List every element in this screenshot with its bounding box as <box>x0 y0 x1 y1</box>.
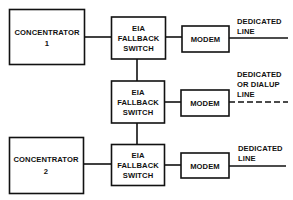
concentrator-1-number: 1 <box>45 39 50 48</box>
eia-fallback-switch-2: EIA FALLBACK SWITCH <box>112 81 165 123</box>
line-1-label-line1: DEDICATED <box>237 17 282 26</box>
line-2-label-line1: DEDICATED <box>237 70 282 79</box>
fallback-switch-diagram: CONCENTRATOR 1 CONCENTRATOR 2 EIA FALLBA… <box>0 0 293 200</box>
modem-3: MODEM <box>181 153 229 178</box>
concentrator-2-label: CONCENTRATOR <box>13 155 78 164</box>
concentrator-1-label: CONCENTRATOR <box>14 28 79 37</box>
switch-3-label-line2: FALLBACK <box>117 161 159 170</box>
switch-1-label-line1: EIA <box>132 24 145 33</box>
line-3-label: DEDICATED LINE <box>238 144 283 163</box>
line-1-label-line2: LINE <box>237 27 255 36</box>
line-3-label-line2: LINE <box>238 154 256 163</box>
switch-3-label-line1: EIA <box>132 151 145 160</box>
modem-1: MODEM <box>182 26 229 52</box>
line-2-label-line3: LINE <box>237 90 255 99</box>
line-3-label-line1: DEDICATED <box>238 144 283 153</box>
switch-1-label-line3: SWITCH <box>123 44 154 53</box>
line-2-label-line2: OR DIALUP <box>237 80 280 89</box>
concentrator-2-number: 2 <box>44 167 48 176</box>
line-2-label: DEDICATED OR DIALUP LINE <box>237 70 282 99</box>
modem-2: MODEM <box>181 90 229 116</box>
eia-fallback-switch-1: EIA FALLBACK SWITCH <box>112 17 166 59</box>
switch-2-label-line1: EIA <box>132 88 145 97</box>
switch-3-label-line3: SWITCH <box>123 171 154 180</box>
modem-3-label: MODEM <box>190 162 220 171</box>
concentrator-1-box: CONCENTRATOR 1 <box>10 10 85 65</box>
modem-2-label: MODEM <box>190 99 220 108</box>
line-1-label: DEDICATED LINE <box>237 17 282 36</box>
eia-fallback-switch-3: EIA FALLBACK SWITCH <box>112 145 165 186</box>
switch-1-label-line2: FALLBACK <box>118 34 160 43</box>
modem-1-label: MODEM <box>191 35 221 44</box>
switch-2-label-line2: FALLBACK <box>117 98 159 107</box>
concentrator-2-box: CONCENTRATOR 2 <box>10 138 84 194</box>
switch-2-label-line3: SWITCH <box>123 108 154 117</box>
